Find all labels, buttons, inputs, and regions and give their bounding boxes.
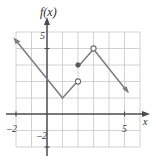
closed-dot-marker — [76, 63, 80, 67]
function-curve-branch-1 — [16, 41, 76, 99]
function-curve-branch-2 — [79, 51, 126, 90]
x-axis-label: x — [143, 117, 147, 127]
coordinate-plane-svg — [0, 0, 156, 160]
y-axis-tick-label-negative-2: –2 — [37, 131, 47, 141]
curve-segment-final-descent — [95, 51, 126, 90]
curve-left-arrowhead — [14, 38, 21, 45]
curve-segment-ascending-high — [79, 51, 92, 66]
open-circle-marker-peak — [91, 46, 96, 51]
x-axis-tick-label-5: 5 — [122, 124, 127, 134]
curve-segment-descending — [16, 41, 63, 99]
y-axis-tick-label-5: 5 — [40, 31, 45, 41]
open-circle-marker-low — [75, 79, 80, 84]
curve-segment-ascending-low — [63, 83, 77, 98]
function-name-label: f(x) — [40, 6, 57, 18]
graph-figure: f(x) x 5 –2 –2 5 — [0, 0, 156, 160]
x-axis-tick-label-negative-2: –2 — [7, 124, 17, 134]
